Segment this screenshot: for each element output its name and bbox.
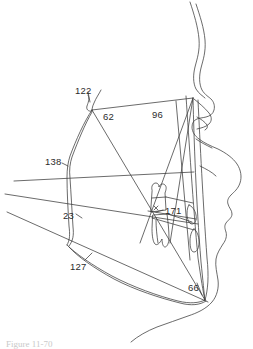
posterior-tooth-detail-2 — [190, 229, 199, 252]
upper-molar-mark-x — [154, 206, 158, 210]
leader-line-138 — [62, 163, 68, 166]
figure-caption: Figure 11-70 — [6, 340, 52, 349]
ref-label-66: 66 — [188, 283, 199, 293]
nasion-hook-detail-2 — [92, 90, 101, 111]
ref-label-23: 23 — [63, 211, 74, 221]
lower-molar-root-line — [156, 220, 158, 243]
anterior-cranial-contour-inner — [69, 112, 92, 246]
measure-line-cross-diagonal — [140, 98, 193, 243]
forehead-inner-contour — [190, 2, 205, 98]
leader-line-127 — [85, 253, 92, 260]
measure-line-138 — [14, 172, 194, 181]
ref-label-122: 122 — [75, 86, 91, 96]
nose-dorsum-line — [194, 99, 211, 129]
upper-lip-inner-line — [196, 139, 212, 148]
ref-label-96: 96 — [152, 110, 163, 120]
mandibular-inferior-border — [67, 245, 205, 303]
measure-line-apex-to-gonion — [92, 110, 205, 300]
ref-label-171: 171 — [165, 206, 181, 216]
ref-label-138: 138 — [45, 157, 61, 167]
measure-line-62 — [92, 98, 193, 110]
mandibular-condyle-line — [186, 96, 205, 300]
palatal-shelf-line — [166, 197, 193, 203]
ref-label-62: 62 — [103, 112, 114, 122]
lower-lip-inner-line — [200, 166, 216, 176]
leader-line-23 — [76, 214, 82, 218]
upper-molar-cusp-line — [152, 197, 166, 198]
ref-label-127: 127 — [70, 262, 86, 272]
